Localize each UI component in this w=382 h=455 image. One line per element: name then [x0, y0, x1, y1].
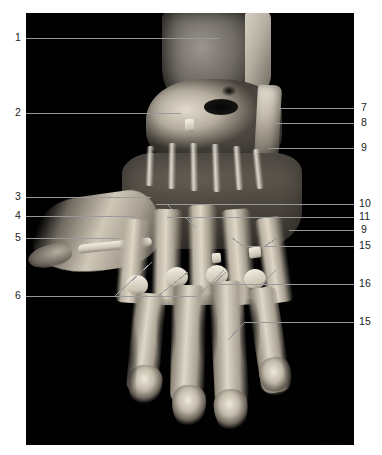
label-1: 1 [8, 32, 21, 43]
web-space-shadow [240, 299, 260, 365]
label-6: 6 [8, 290, 21, 301]
label-3: 3 [8, 191, 21, 202]
lower-field-shadow [26, 313, 136, 445]
web-space-shadow [156, 299, 176, 363]
carpal-shadow-2 [222, 86, 236, 96]
tendon-stump-chip [248, 246, 261, 258]
label-5: 5 [8, 232, 21, 243]
tendon-stump-chip [212, 253, 222, 264]
label-16: 16 [359, 278, 371, 289]
label-7: 7 [361, 102, 367, 113]
carpal-shadow [204, 99, 238, 115]
web-space-shadow [198, 295, 218, 365]
fingertip [171, 384, 207, 429]
extensor-tendon [190, 143, 199, 191]
anatomy-plate: 1 2 3 4 5 6 7 8 9 10 11 9 15 16 15 [0, 0, 382, 455]
extensor-tendon [211, 144, 221, 192]
label-9a: 9 [361, 142, 367, 153]
label-2: 2 [8, 107, 21, 118]
specimen-layer [26, 13, 354, 445]
label-11: 11 [359, 211, 370, 222]
specimen-photograph [26, 13, 354, 445]
tendon-stump-chip [185, 119, 194, 132]
label-4: 4 [8, 210, 21, 221]
lower-field-shadow [276, 353, 354, 445]
extensor-tendon [145, 146, 154, 186]
label-15a: 15 [359, 240, 371, 251]
label-8: 8 [361, 117, 367, 128]
extensor-tendon [168, 143, 177, 189]
label-15b: 15 [359, 316, 371, 327]
label-9b: 9 [361, 224, 367, 235]
label-10: 10 [359, 198, 371, 209]
fingertip [213, 388, 249, 434]
